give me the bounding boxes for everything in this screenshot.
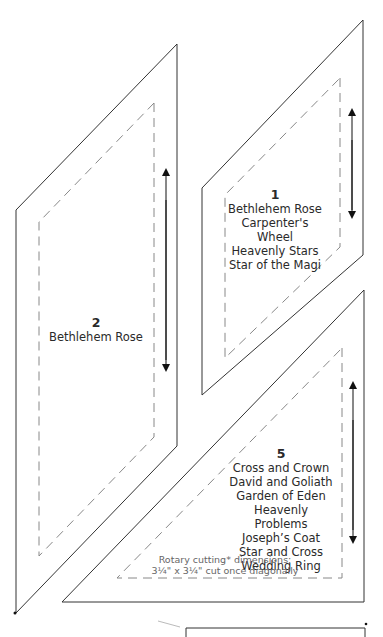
rotary-cutting-note: Rotary cutting* dimensions: 3¼" x 3¼" cu… (140, 554, 310, 576)
block-name: Star of the Magi (225, 258, 325, 272)
partial-template-bottom (158, 621, 367, 637)
block-name: Garden of Eden (226, 489, 336, 503)
block-name: Bethlehem Rose (40, 330, 152, 344)
block-name: Heavenly Stars (225, 244, 325, 258)
piece-number: 1 (225, 188, 325, 202)
piece-1-label: 1 Bethlehem Rose Carpenter's Wheel Heave… (225, 188, 325, 272)
piece-2-label: 2 Bethlehem Rose (40, 316, 152, 344)
note-line: 3¼" x 3¼" cut once diagonally (140, 565, 310, 576)
piece-number: 5 (226, 447, 336, 461)
block-name: Heavenly Problems (226, 503, 336, 531)
block-name: Bethlehem Rose (225, 202, 325, 216)
note-line: Rotary cutting* dimensions: (140, 554, 310, 565)
block-name: Carpenter's Wheel (225, 216, 325, 244)
block-name: Joseph’s Coat (226, 531, 336, 545)
block-name: David and Goliath (226, 475, 336, 489)
piece-number: 2 (40, 316, 152, 330)
block-name: Cross and Crown (226, 461, 336, 475)
